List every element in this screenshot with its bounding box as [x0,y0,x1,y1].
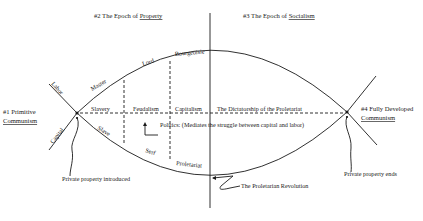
politics-annotation: Politics: (Mediates the struggle between… [160,121,304,129]
feudalism-label: Feudalism [133,105,159,112]
upper-curve [77,50,347,113]
dictatorship-label: The Dictatorship of the Proletariat [217,105,302,112]
epoch-1-label: #1 Primitive [3,108,36,115]
epoch-1-underlined: Communism [3,117,38,124]
capital-label: Capital [48,126,65,145]
revolution-pointer [213,176,240,189]
property-ends-annotation: Private property ends [344,170,398,177]
politics-pointer [145,126,158,135]
proletariat-label: Proletariat [176,159,203,169]
property-introduced-annotation: Private property introduced [62,175,131,182]
slave-label: Slave [96,124,112,137]
epoch-4-label: #4 Fully Developed [361,105,414,112]
epoch-3-label: #3 The Epoch of Socialism [243,12,316,19]
slavery-label: Slavery [91,105,111,112]
revolution-annotation: The Proletarian Revolution [241,182,308,189]
serf-label: Serf [145,146,158,156]
lord-label: Lord [141,56,155,67]
epoch-4-underlined: Communism [361,114,396,121]
capitalism-label: Capitalism [175,105,202,112]
property-ends-pointer [346,116,351,172]
property-introduced-pointer [70,117,78,176]
epoch-2-label: #2 The Epoch of Property [94,12,163,19]
epochs-diagram: #1 Primitive Communism #2 The Epoch of P… [0,0,423,221]
bourgeoisie-label: Bourgeoisie [174,47,205,57]
